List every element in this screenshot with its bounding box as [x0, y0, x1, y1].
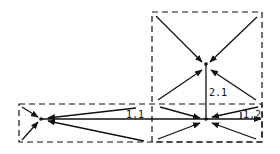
arrow-icon — [48, 121, 144, 141]
arrow-icon — [212, 123, 256, 139]
arrow-icon — [48, 108, 136, 118]
arrow-icon — [22, 107, 38, 117]
arrow-icon — [160, 107, 200, 118]
label-2-1: 2.1 — [209, 87, 227, 98]
node-left — [39, 117, 43, 121]
upper-region-box — [152, 12, 262, 142]
node-center — [204, 117, 208, 121]
arrow-icon — [22, 122, 38, 140]
label-1-2: 1.2 — [243, 109, 261, 120]
arrow-icon — [158, 70, 202, 100]
diagram-canvas: 1.1 1.2 2.1 — [0, 0, 280, 154]
arrow-icon — [158, 123, 200, 139]
arrow-icon — [210, 17, 257, 62]
arrow-icon — [156, 16, 202, 62]
node-top — [204, 62, 208, 66]
label-1-1: 1.1 — [126, 109, 144, 120]
